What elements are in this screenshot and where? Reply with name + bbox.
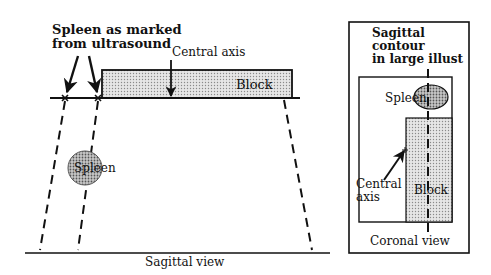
block-label: Block — [236, 77, 273, 92]
coronal-central-axis-arrow — [384, 151, 404, 180]
contour-label-line3: in large illust — [372, 52, 463, 66]
spleen-marked-label-line2: from ultrasound — [52, 36, 171, 51]
coronal-view: Sagittal contour in large illust Block S… — [349, 22, 469, 253]
contour-label-line1: Sagittal — [372, 26, 425, 40]
central-axis-label: Central axis — [172, 45, 245, 59]
contour-label-line2: contour — [372, 39, 425, 53]
spleen-label: Spleen — [74, 161, 116, 175]
spleen-mark-arrow-right — [89, 56, 97, 92]
projection-line-left-outer — [40, 101, 65, 250]
spleen-mark-arrow-left — [67, 56, 78, 92]
coronal-central-axis-label-line2: axis — [356, 190, 380, 204]
sagittal-view-label: Sagittal view — [145, 255, 225, 269]
coronal-central-axis-label-line1: Central — [356, 177, 402, 191]
coronal-spleen-label: Spleen — [385, 91, 427, 105]
spleen-marked-label-line1: Spleen as marked — [52, 22, 182, 37]
projection-line-right — [284, 100, 312, 250]
coronal-view-label: Coronal view — [370, 234, 451, 248]
sagittal-view: Spleen as marked from ultrasound Block C… — [25, 22, 330, 269]
diagram-canvas: Spleen as marked from ultrasound Block C… — [0, 0, 491, 275]
coronal-block-label: Block — [414, 183, 449, 197]
